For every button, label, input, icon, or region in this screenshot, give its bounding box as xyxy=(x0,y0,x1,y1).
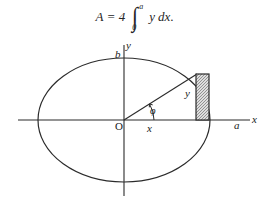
hatched-strip xyxy=(196,74,209,120)
formula-integrand: y xyxy=(149,9,155,25)
figure-page: A=4 ∫ a 0 ydx. xyxy=(0,0,269,205)
y-axis-label: y xyxy=(126,40,131,51)
formula-coefficient: 4 xyxy=(119,9,126,25)
abscissa-label: x xyxy=(147,123,152,134)
formula-period: . xyxy=(170,9,173,25)
x-axis-label: x xyxy=(252,114,257,125)
ellipse-diagram: y b x a O φ x y xyxy=(0,36,269,205)
formula-differential: dx xyxy=(158,9,170,25)
integral-lower-limit: 0 xyxy=(132,23,136,32)
formula-area-symbol: A xyxy=(95,9,103,25)
semi-major-axis-label: a xyxy=(234,120,240,131)
integral-sign-group: ∫ a 0 xyxy=(129,4,145,30)
ordinate-label: y xyxy=(185,88,190,99)
integral-upper-limit: a xyxy=(139,2,143,11)
semi-minor-axis-label: b xyxy=(115,49,121,60)
angle-phi-label: φ xyxy=(150,106,156,116)
area-formula: A=4 ∫ a 0 ydx. xyxy=(0,4,269,30)
ellipse-diagram-canvas xyxy=(0,36,269,205)
formula-equals-sign: = xyxy=(107,9,114,25)
origin-label: O xyxy=(115,121,123,132)
